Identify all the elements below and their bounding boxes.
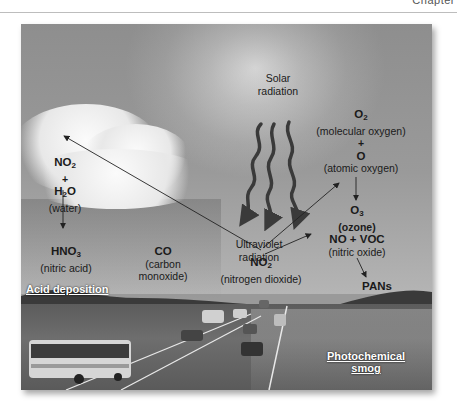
uv-line1: Ultraviolet: [236, 238, 283, 251]
co-label: CO (carbon monoxide): [138, 245, 187, 283]
co-formula: CO: [154, 245, 171, 257]
uv-ray-icon: [267, 124, 274, 222]
no-voc-name: (nitric oxide): [328, 246, 385, 259]
smog-caption-line2: smog: [327, 362, 405, 374]
h2o-o: O: [67, 185, 76, 197]
no2-h2o-label: NO2 + H2O (water): [49, 156, 82, 214]
pans-text: PANs: [362, 280, 392, 292]
smog-caption-line1: Photochemical: [327, 350, 405, 362]
hno3-label: HNO3 (nitric acid): [40, 245, 91, 274]
plus-right: +: [316, 137, 405, 150]
acid-deposition-caption: Acid deposition: [26, 283, 109, 295]
uv-ray-icon: [287, 122, 297, 220]
solar-line2: radiation: [258, 85, 298, 98]
hno3-name: (nitric acid): [40, 262, 91, 275]
uv-radiation-arrows: [245, 122, 298, 222]
no2-center-name: (nitrogen dioxide): [220, 273, 301, 286]
arrow-no2-to-h2o: [64, 136, 261, 250]
no-voc-label: NO + VOC (nitric oxide): [328, 233, 385, 258]
photochemical-smog-caption: Photochemical smog: [327, 350, 405, 374]
co-name2: monoxide): [138, 270, 187, 283]
o2-name: (molecular oxygen): [316, 125, 405, 138]
o2-sub: 2: [363, 113, 367, 122]
h2o-h: H: [54, 185, 62, 197]
h2o-name: (water): [49, 202, 82, 215]
cars: [181, 300, 286, 356]
no2-center-sub: 2: [267, 261, 271, 270]
no2-cloud-sub: 2: [71, 161, 75, 170]
uv-ray-icon: [245, 124, 261, 218]
arrow-no-to-pans: [357, 258, 366, 277]
pans-label: PANs: [362, 280, 392, 293]
bus: [29, 340, 131, 384]
solar-radiation-label: Solar radiation: [258, 72, 298, 97]
hno3-sub: 3: [77, 250, 81, 259]
header-rule: [0, 12, 457, 13]
o3-name: (ozone): [338, 221, 375, 234]
hno3-formula: HNO: [51, 245, 77, 257]
o2-label: O2 (molecular oxygen) + O (atomic oxygen…: [316, 108, 405, 175]
no2-cloud-formula: NO: [54, 156, 71, 168]
no2-center-label: NO2 (nitrogen dioxide): [220, 256, 301, 285]
chapter-tag: Chapter: [412, 0, 455, 6]
o-name: (atomic oxygen): [316, 162, 405, 175]
o2-formula: O: [354, 108, 363, 120]
plus-left: +: [49, 173, 82, 186]
no-voc-formula: NO + VOC: [329, 233, 384, 245]
air-pollution-diagram: Solar radiation O2 (molecular oxygen) + …: [21, 24, 432, 390]
co-name1: (carbon: [138, 258, 187, 271]
o3-label: O3 (ozone): [338, 204, 375, 233]
solar-line1: Solar: [258, 72, 298, 85]
o-formula: O: [357, 150, 366, 162]
o3-sub: 3: [359, 209, 363, 218]
o3-formula: O: [350, 204, 359, 216]
no2-center-formula: NO: [250, 256, 267, 268]
